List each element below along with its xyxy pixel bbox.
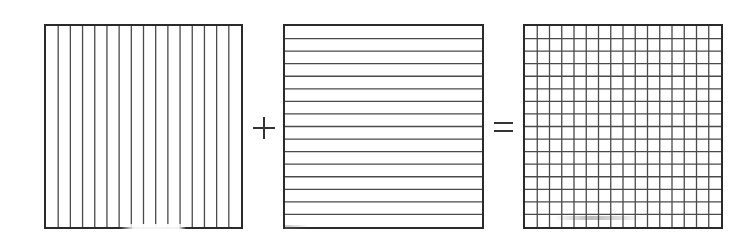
vertical-lines-pattern bbox=[46, 26, 241, 227]
print-fade-artifact bbox=[285, 225, 482, 229]
vertical-lines-square bbox=[44, 24, 243, 229]
grid-square bbox=[523, 24, 723, 229]
print-fade-artifact bbox=[555, 216, 645, 220]
plus-operator bbox=[253, 117, 275, 139]
equals-operator bbox=[494, 121, 514, 133]
grid-pattern bbox=[525, 26, 721, 227]
horizontal-lines-pattern bbox=[285, 26, 482, 227]
horizontal-lines-square bbox=[283, 24, 484, 229]
print-fade-artifact bbox=[46, 224, 241, 230]
